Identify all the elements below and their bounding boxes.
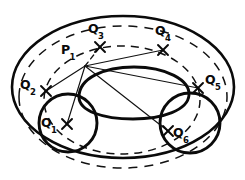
marker-q6 xyxy=(163,126,173,136)
segment-p1-q5 xyxy=(85,66,198,88)
point-label-q4-sub: 4 xyxy=(165,33,171,43)
point-label-q6: Q6 xyxy=(173,127,189,142)
point-label-q4-base: Q xyxy=(155,23,165,38)
point-label-q6-base: Q xyxy=(173,125,183,140)
geometric-diagram-figure: P1 Q1 Q2 Q3 Q4 Q5 Q6 xyxy=(0,0,245,180)
point-label-q3-sub: 3 xyxy=(98,31,104,41)
point-label-q5-sub: 5 xyxy=(215,82,221,92)
point-label-q1-base: Q xyxy=(41,115,51,130)
diagram-canvas xyxy=(0,0,245,180)
point-label-q3: Q3 xyxy=(88,23,104,38)
point-label-q2-sub: 2 xyxy=(30,87,36,97)
marker-q2 xyxy=(41,86,51,96)
point-label-q1-sub: 1 xyxy=(51,125,57,135)
segment-p1-q2 xyxy=(46,66,85,91)
marker-q1 xyxy=(62,119,72,129)
point-label-q5-base: Q xyxy=(205,72,215,87)
point-label-q6-sub: 6 xyxy=(183,135,189,145)
point-label-q3-base: Q xyxy=(88,21,98,36)
point-label-p1-sub: 1 xyxy=(69,52,75,62)
point-label-q2: Q2 xyxy=(20,79,36,94)
point-label-q4: Q4 xyxy=(155,25,171,40)
point-label-q1: Q1 xyxy=(41,117,57,132)
point-label-q5: Q5 xyxy=(205,74,221,89)
segment-p1-q4 xyxy=(85,50,163,66)
point-label-q2-base: Q xyxy=(20,77,30,92)
marker-q5 xyxy=(193,83,203,93)
outer-oval-boundary xyxy=(12,16,234,158)
point-label-p1: P1 xyxy=(61,44,76,59)
